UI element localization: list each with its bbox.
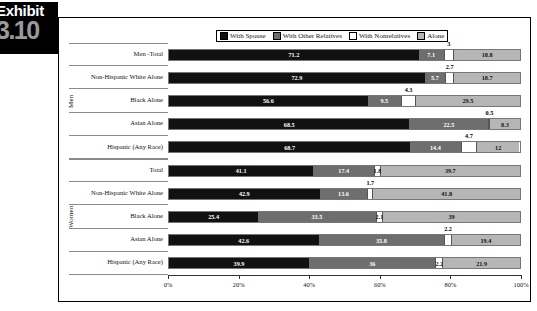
segment-value-label: 14.4	[430, 144, 441, 151]
bar-area: 72.95.72.718.7	[168, 66, 521, 89]
bar-segment-other[interactable]: 33.5	[258, 212, 376, 222]
segment-value-label: 18.7	[482, 74, 493, 81]
segment-value-label: 29.5	[462, 97, 473, 104]
legend-item-other: With Other Relatives	[273, 32, 342, 40]
segment-value-label: 33.5	[312, 213, 323, 220]
bar-segment-nonrel[interactable]: 2.2	[435, 258, 443, 268]
bar-segment-spouse[interactable]: 42.9	[169, 189, 320, 199]
bar-segment-nonrel[interactable]: 4.3	[401, 96, 416, 106]
stacked-bar[interactable]: 56.69.54.329.5	[168, 95, 521, 107]
segment-value-label: 71.2	[288, 51, 299, 58]
chart-legend: With SpouseWith Other RelativesWith Nonr…	[216, 30, 448, 42]
bar-segment-other[interactable]: 17.4	[313, 166, 374, 176]
bar-segment-alone[interactable]: 39	[383, 212, 520, 222]
bar-row: Hispanic (Any Race)39.9362.221.9	[69, 252, 521, 275]
bar-segment-nonrel[interactable]: 4.7	[461, 142, 477, 152]
row-category-label: Black Alone	[69, 89, 168, 112]
bar-segment-other[interactable]: 9.5	[368, 96, 401, 106]
row-category-label: Men -Total	[69, 43, 168, 66]
bar-row: Asian Alone68.522.50.58.3	[69, 113, 521, 136]
bar-segment-alone[interactable]: 21.9	[443, 258, 520, 268]
segment-value-label: 2.2	[435, 260, 443, 267]
segment-value-label: 56.6	[263, 97, 274, 104]
stacked-bar[interactable]: 25.433.52.139	[168, 211, 521, 223]
legend-label: With Other Relatives	[283, 32, 342, 40]
exhibit-badge: Exhibit 3.10	[0, 2, 58, 54]
axis-line	[168, 275, 521, 276]
row-category-label: Asian Alone	[69, 229, 168, 252]
bar-segment-spouse[interactable]: 68.5	[169, 119, 409, 129]
bar-segment-spouse[interactable]: 39.9	[169, 258, 309, 268]
bar-segment-other[interactable]: 7.1	[419, 50, 444, 60]
bar-segment-spouse[interactable]: 71.2	[169, 50, 419, 60]
stacked-bar[interactable]: 42.635.82.219.4	[168, 234, 521, 246]
stacked-bar[interactable]: 68.522.50.58.3	[168, 118, 521, 130]
segment-value-label: 42.6	[238, 237, 249, 244]
bar-segment-spouse[interactable]: 25.4	[169, 212, 258, 222]
bar-segment-spouse[interactable]: 56.6	[169, 96, 368, 106]
segment-value-label: 72.9	[292, 74, 303, 81]
segment-value-label: 39.9	[234, 260, 245, 267]
segment-value-label: 41.8	[441, 190, 452, 197]
bar-row: Black Alone56.69.54.329.5	[69, 89, 521, 112]
legend-swatch-spouse-icon	[220, 32, 228, 40]
legend-swatch-alone-icon	[417, 32, 425, 40]
bar-segment-alone[interactable]: 8.3	[490, 119, 519, 129]
bar-area: 56.69.54.329.5	[168, 89, 521, 112]
segment-value-label: 2.7	[446, 63, 454, 70]
segment-value-label: 1.7	[366, 179, 374, 186]
bar-segment-other[interactable]: 14.4	[410, 142, 461, 152]
bar-segment-alone[interactable]: 19.4	[452, 235, 520, 245]
bar-segment-spouse[interactable]: 41.1	[169, 166, 313, 176]
bar-segment-spouse[interactable]: 42.6	[169, 235, 319, 245]
bar-segment-other[interactable]: 13.6	[320, 189, 368, 199]
axis-tick	[380, 275, 381, 279]
segment-value-label: 8.3	[501, 121, 509, 128]
stacked-bar[interactable]: 72.95.72.718.7	[168, 72, 521, 84]
bar-area: 39.9362.221.9	[168, 252, 521, 275]
row-category-label: Non-Hispanic White Alone	[69, 66, 168, 89]
stacked-bar[interactable]: 68.714.44.712	[168, 141, 521, 153]
axis-tick-label: 20%	[233, 281, 245, 288]
bar-segment-other[interactable]: 5.7	[425, 73, 445, 83]
stacked-bar[interactable]: 41.117.41.839.7	[168, 165, 521, 177]
bar-segment-spouse[interactable]: 72.9	[169, 73, 425, 83]
bar-segment-nonrel[interactable]: 2.1	[376, 212, 383, 222]
bar-segment-other[interactable]: 22.5	[409, 119, 488, 129]
bar-segment-nonrel[interactable]: 2.7	[445, 73, 454, 83]
bar-segment-alone[interactable]: 41.8	[373, 189, 520, 199]
bar-segment-spouse[interactable]: 68.7	[169, 142, 410, 152]
axis-tick-label: 80%	[445, 281, 457, 288]
plot-area: Men Women Men -Total71.27.1318.8Non-Hisp…	[69, 43, 521, 293]
bar-segment-alone[interactable]: 18.7	[454, 73, 520, 83]
bar-segment-alone[interactable]: 18.8	[454, 50, 520, 60]
bar-segment-alone[interactable]: 39.7	[381, 166, 520, 176]
legend-label: With Nonrelatives	[359, 32, 410, 40]
stacked-bar[interactable]: 39.9362.221.9	[168, 257, 521, 269]
bar-segment-nonrel[interactable]: 3	[444, 50, 455, 60]
segment-value-label: 17.4	[338, 167, 349, 174]
segment-value-label: 4.3	[405, 86, 413, 93]
stacked-bar[interactable]: 71.27.1318.8	[168, 49, 521, 61]
x-axis: 0%20%40%60%80%100%	[168, 275, 521, 293]
bar-segment-alone[interactable]: 29.5	[416, 96, 520, 106]
axis-tick	[450, 275, 451, 279]
bar-segment-alone[interactable]: 12	[477, 142, 519, 152]
bar-area: 68.714.44.712	[168, 136, 521, 159]
exhibit-chart-page: Exhibit 3.10 With SpouseWith Other Relat…	[0, 0, 537, 311]
segment-value-label: 22.5	[443, 121, 454, 128]
segment-value-label: 41.1	[236, 167, 247, 174]
segment-value-label: 0.5	[486, 109, 494, 116]
legend-swatch-nonrel-icon	[349, 32, 357, 40]
bar-segment-other[interactable]: 35.8	[319, 235, 445, 245]
axis-tick	[521, 275, 522, 279]
bar-segment-other[interactable]: 36	[309, 258, 435, 268]
legend-label: With Spouse	[230, 32, 266, 40]
segment-value-label: 3	[447, 40, 450, 47]
bar-segment-nonrel[interactable]: 2.2	[444, 235, 452, 245]
stacked-bar[interactable]: 42.913.61.741.8	[168, 188, 521, 200]
legend-item-nonrel: With Nonrelatives	[349, 32, 410, 40]
segment-value-label: 35.8	[376, 237, 387, 244]
axis-tick	[168, 275, 169, 279]
row-category-label: Hispanic (Any Race)	[69, 252, 168, 275]
